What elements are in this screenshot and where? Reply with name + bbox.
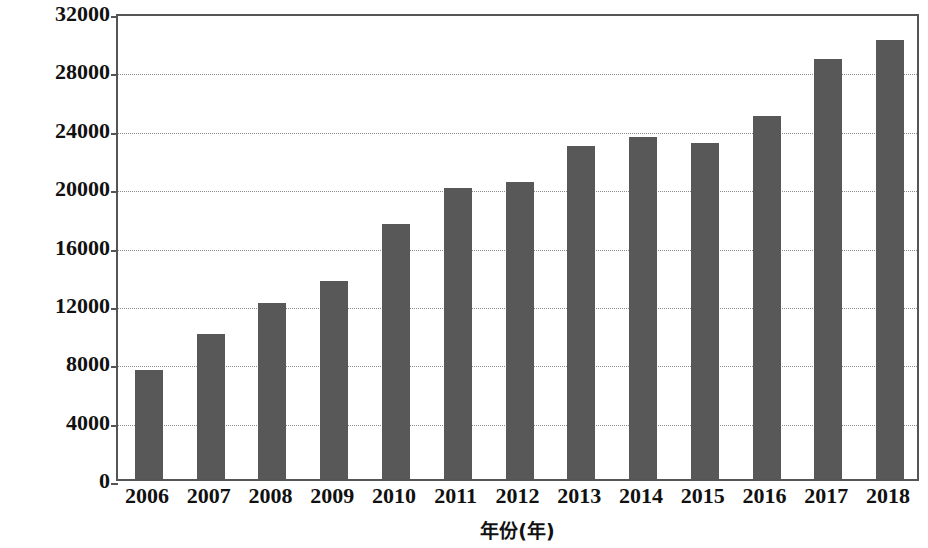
y-axis-tick-label: 4000 (28, 412, 110, 434)
x-axis-tick-label: 2012 (483, 484, 553, 508)
bar (444, 188, 472, 479)
bar (567, 146, 595, 479)
bar (382, 224, 410, 479)
x-axis-tick-label: 2017 (791, 484, 861, 508)
x-axis-tick-label: 2016 (730, 484, 800, 508)
x-axis-tick-label-group: 2006200720082009201020112012201320142015… (116, 484, 919, 514)
y-axis-tick-mark (111, 366, 118, 368)
y-axis-tick-label: 0 (28, 470, 110, 492)
y-axis-tick-label: 28000 (28, 61, 110, 83)
bar (753, 116, 781, 479)
bar (197, 334, 225, 479)
bar-chart: 货物周转量(亿吨公里) 0400080001200016000200002400… (0, 0, 928, 548)
x-axis-tick-label: 2006 (112, 484, 182, 508)
x-axis-title: 年份(年) (116, 516, 919, 543)
x-axis-tick-label: 2010 (359, 484, 429, 508)
y-axis-tick-mark (111, 250, 118, 252)
bar (258, 303, 286, 479)
y-axis-tick-label: 20000 (28, 178, 110, 200)
y-axis-tick-mark (111, 308, 118, 310)
y-axis-tick-label: 12000 (28, 295, 110, 317)
plot-area (116, 14, 919, 481)
x-axis-tick-label: 2013 (544, 484, 614, 508)
y-axis-tick-label-group: 040008000120001600020000240002800032000 (28, 0, 110, 548)
bar (814, 59, 842, 479)
bar (629, 137, 657, 479)
bar (506, 182, 534, 479)
x-axis-tick-label: 2007 (174, 484, 244, 508)
y-axis-tick-label: 8000 (28, 353, 110, 375)
y-axis-tick-mark (111, 133, 118, 135)
x-axis-tick-label: 2018 (853, 484, 923, 508)
y-axis-tick-label: 32000 (28, 3, 110, 25)
y-axis-tick-label: 24000 (28, 120, 110, 142)
bars-layer (118, 16, 917, 479)
y-axis-tick-mark (111, 191, 118, 193)
x-axis-tick-label: 2009 (297, 484, 367, 508)
y-axis-tick-mark (111, 16, 118, 18)
y-axis-tick-mark (111, 74, 118, 76)
bar (320, 281, 348, 479)
x-axis-tick-label: 2015 (668, 484, 738, 508)
y-axis-tick-mark (111, 425, 118, 427)
bar (135, 370, 163, 479)
y-axis-tick-label: 16000 (28, 237, 110, 259)
x-axis-tick-label: 2008 (235, 484, 305, 508)
bar (876, 40, 904, 479)
bar (691, 143, 719, 479)
x-axis-tick-label: 2011 (421, 484, 491, 508)
x-axis-tick-label: 2014 (606, 484, 676, 508)
